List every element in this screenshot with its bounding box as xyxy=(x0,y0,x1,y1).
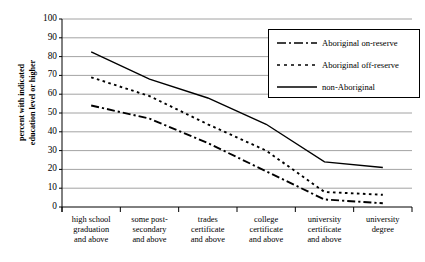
legend-label: non-Aboriginal xyxy=(322,82,375,92)
y-axis-tick-label: 70 xyxy=(31,70,57,79)
y-axis-tick-label: 50 xyxy=(31,108,57,117)
legend-swatch-solid xyxy=(277,81,317,93)
y-axis-tick-label: 80 xyxy=(31,52,57,61)
y-axis-tick-label: 20 xyxy=(31,164,57,173)
x-axis-label-line: degree xyxy=(347,225,419,235)
y-axis-tick-label: 60 xyxy=(31,89,57,98)
x-axis-label-line: university xyxy=(347,215,419,225)
y-axis-title-line-1: percent with indicated xyxy=(17,18,28,188)
legend-label: Aboriginal on-reserve xyxy=(322,38,398,48)
legend-label: Aboriginal off-reserve xyxy=(322,60,399,70)
legend-item-non-aboriginal: non-Aboriginal xyxy=(269,75,419,98)
x-axis-category-label: universitydegree xyxy=(347,215,419,235)
chart-legend: Aboriginal on-reserve Aboriginal off-res… xyxy=(268,29,420,98)
legend-swatch-dash-dot xyxy=(277,37,317,49)
y-axis-tick-label: 30 xyxy=(31,146,57,155)
y-axis-tick-label: 10 xyxy=(31,183,57,192)
chart-container: percent with indicated education level o… xyxy=(0,0,425,262)
legend-item-aboriginal-on-reserve: Aboriginal on-reserve xyxy=(269,31,419,54)
y-axis-tick-label: 0 xyxy=(31,202,57,211)
y-axis-tick-label: 90 xyxy=(31,33,57,42)
legend-item-aboriginal-off-reserve: Aboriginal off-reserve xyxy=(269,53,419,76)
legend-swatch-dotted xyxy=(277,59,317,71)
y-axis-title-line-2: education level or higher xyxy=(27,18,38,188)
y-axis-title: percent with indicated education level o… xyxy=(17,18,38,188)
y-axis-tick-label: 40 xyxy=(31,127,57,136)
x-axis-label-line: and above xyxy=(288,235,360,245)
y-axis-tick-label: 100 xyxy=(31,14,57,23)
